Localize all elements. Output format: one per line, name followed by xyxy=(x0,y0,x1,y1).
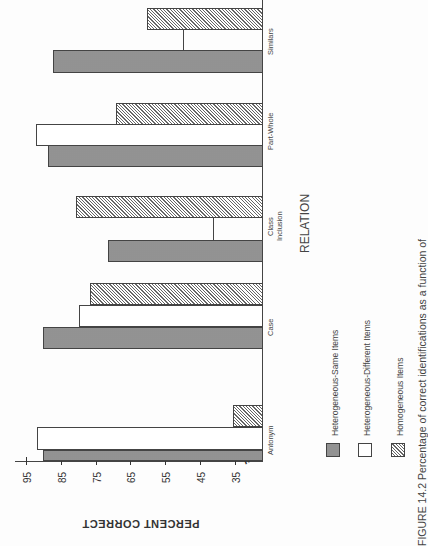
bar-case-hetero-different xyxy=(79,305,263,327)
legend-label-homogeneous: Homogeneous Items xyxy=(395,358,405,436)
bar-antonym-hetero-same xyxy=(43,450,263,461)
category-label-similars: Similars xyxy=(267,28,275,55)
tick-label-35: 35 xyxy=(231,468,242,488)
x-axis-label: RELATION xyxy=(298,194,312,253)
tick-label-75: 75 xyxy=(92,468,103,488)
value-axis-line xyxy=(15,461,263,462)
tick-label-85: 85 xyxy=(57,468,68,488)
legend-label-hetero-same: Heterogeneous-Same Items xyxy=(330,330,340,436)
tick-label-95: 95 xyxy=(22,468,33,488)
bar-partwhole-hetero-different xyxy=(36,124,263,146)
legend-swatch-hetero-different xyxy=(358,443,372,457)
bar-classinclusion-homogeneous xyxy=(76,196,263,218)
category-label-case: Case xyxy=(267,318,275,336)
category-label-antonym: Antonym xyxy=(267,425,275,455)
bar-partwhole-homogeneous xyxy=(116,103,263,125)
bar-classinclusion-hetero-different xyxy=(213,218,214,240)
legend-swatch-homogeneous xyxy=(391,443,405,457)
tick-95 xyxy=(26,457,27,465)
category-label-class-inclusion-line2: Inclusion xyxy=(276,211,284,241)
bar-case-homogeneous xyxy=(90,283,263,305)
bar-classinclusion-hetero-same xyxy=(108,240,263,262)
figure-caption: FIGURE 14.2 Percentage of correct identi… xyxy=(416,239,428,546)
y-axis-label: PERCENT CORRECT xyxy=(82,518,200,530)
legend-swatch-hetero-same xyxy=(326,443,340,457)
bar-antonym-homogeneous xyxy=(233,405,263,427)
bar-antonym-hetero-different xyxy=(37,427,263,450)
category-label-class-inclusion-line1: Class xyxy=(267,217,275,236)
tick-label-55: 55 xyxy=(161,468,172,488)
bar-partwhole-hetero-same xyxy=(48,145,263,167)
legend-label-hetero-different: Heterogeneous-Different Items xyxy=(362,320,372,436)
bar-similars-homogeneous xyxy=(147,8,263,30)
bar-similars-hetero-different xyxy=(183,30,184,50)
category-label-part-whole: Part-Whole xyxy=(267,112,275,150)
bar-similars-hetero-same xyxy=(53,50,263,73)
bar-case-hetero-same xyxy=(43,327,263,349)
tick-label-65: 65 xyxy=(126,468,137,488)
tick-label-45: 45 xyxy=(196,468,207,488)
